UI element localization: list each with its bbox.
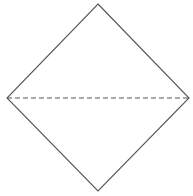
diagram-canvas: [0, 0, 193, 196]
